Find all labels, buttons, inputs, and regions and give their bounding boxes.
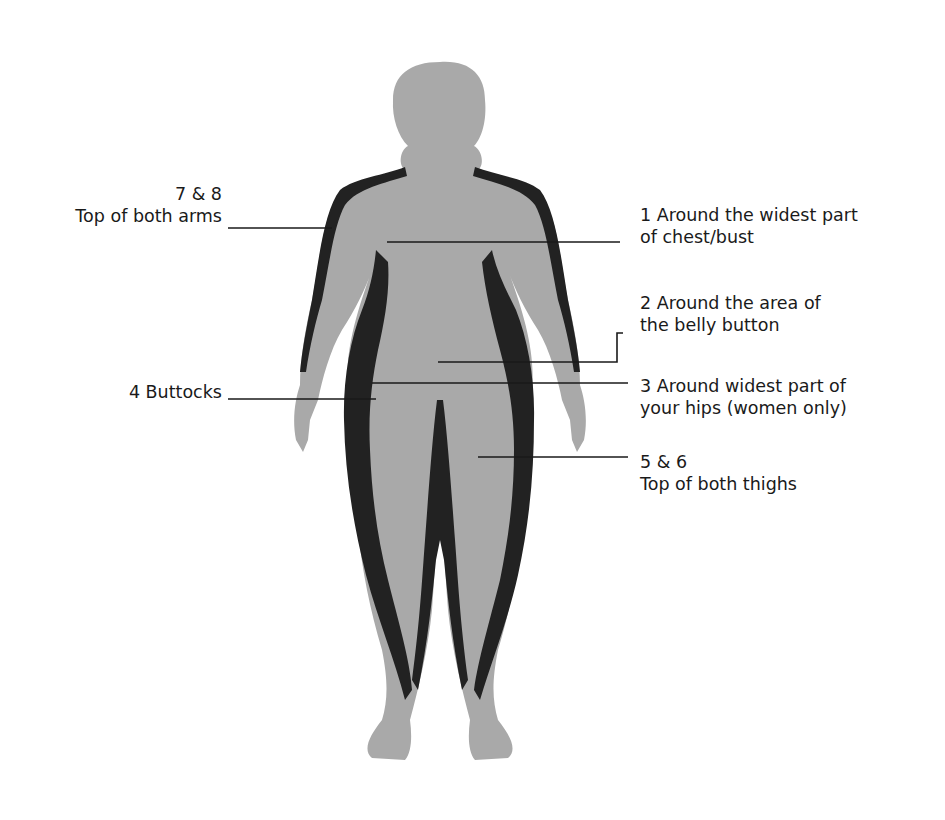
- label-arms-text: Top of both arms: [40, 205, 222, 227]
- label-belly-button: 2 Around the area of the belly button: [640, 292, 821, 336]
- label-hips-line1: 3 Around widest part of: [640, 375, 847, 397]
- label-chest-line1: 1 Around the widest part: [640, 204, 858, 226]
- label-chest: 1 Around the widest part of chest/bust: [640, 204, 858, 248]
- label-buttocks: 4 Buttocks: [60, 381, 222, 403]
- label-hips: 3 Around widest part of your hips (women…: [640, 375, 847, 419]
- label-thighs: 5 & 6 Top of both thighs: [640, 451, 797, 495]
- label-hips-line2: your hips (women only): [640, 397, 847, 419]
- label-thighs-text: Top of both thighs: [640, 473, 797, 495]
- label-thighs-number: 5 & 6: [640, 451, 797, 473]
- label-belly-line1: 2 Around the area of: [640, 292, 821, 314]
- label-top-of-arms: 7 & 8 Top of both arms: [40, 183, 222, 227]
- label-belly-line2: the belly button: [640, 314, 821, 336]
- measurement-diagram: 7 & 8 Top of both arms 1 Around the wide…: [0, 0, 945, 820]
- head: [393, 62, 486, 170]
- label-buttocks-text: 4 Buttocks: [60, 381, 222, 403]
- label-arms-number: 7 & 8: [40, 183, 222, 205]
- label-chest-line2: of chest/bust: [640, 226, 858, 248]
